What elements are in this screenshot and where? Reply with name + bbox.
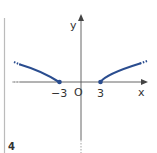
y-axis-arrow-icon (78, 14, 84, 21)
y-axis-label: y (70, 19, 77, 32)
x-axis-arrow-icon (141, 79, 148, 85)
x-axis-label: x (138, 86, 145, 99)
point-3 (98, 80, 103, 85)
origin-label: O (74, 86, 83, 99)
problem-number: 4 (8, 141, 15, 152)
graph: y x O −3 3 4 (0, 0, 157, 153)
point-neg3 (57, 80, 62, 85)
left-branch-curve (20, 65, 59, 83)
tick-label-3: 3 (97, 87, 104, 100)
right-branch-dashed (140, 61, 147, 64)
tick-label-neg3: −3 (51, 87, 67, 100)
right-branch-curve (101, 64, 141, 83)
